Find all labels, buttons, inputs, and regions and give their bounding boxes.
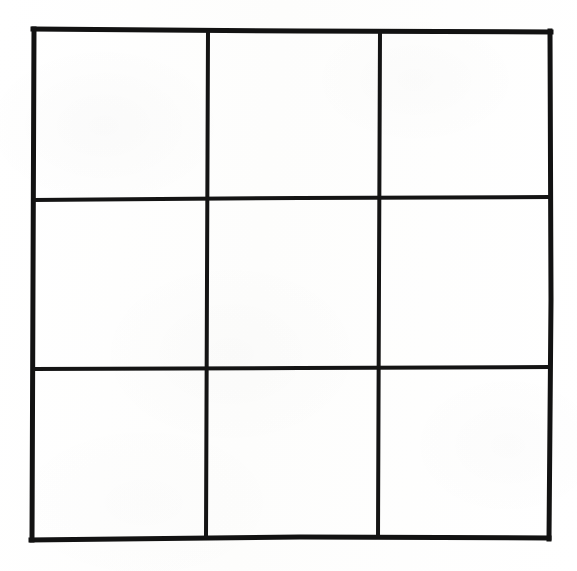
grid-cell-r1c2[interactable] [212,31,377,196]
grid-cell-r1c1[interactable] [36,32,206,196]
frame-bottom-edge [31,537,549,540]
grid-cell-r3c2[interactable] [212,371,377,535]
grid-cell-r1c3[interactable] [383,30,549,196]
grid-cell-r2c3[interactable] [383,200,549,366]
grid-cell-r3c1[interactable] [36,372,206,536]
grid-cell-r3c3[interactable] [383,370,549,534]
frame-right-edge [549,31,551,539]
grid-cell-r2c2[interactable] [212,201,377,366]
vertical-divider-1 [206,31,208,538]
frame-left-edge [32,29,34,540]
grid-cell-r2c1[interactable] [36,202,206,366]
horizontal-divider-2 [33,367,551,369]
vertical-divider-2 [378,31,380,537]
scanned-page [0,0,577,571]
